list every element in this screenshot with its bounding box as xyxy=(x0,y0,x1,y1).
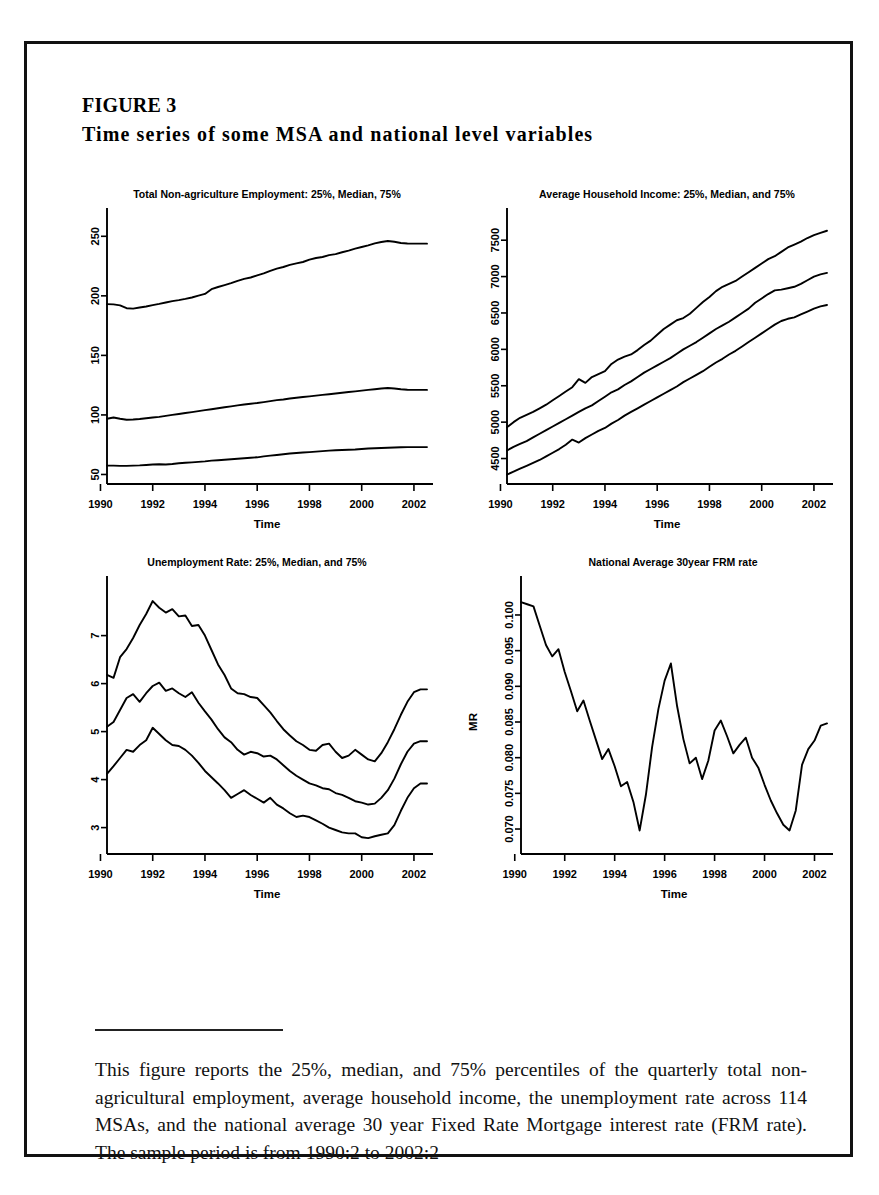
x-tick-label: 1992 xyxy=(140,498,164,510)
figure-label: FIGURE 3 xyxy=(82,91,593,120)
x-tick-label: 1996 xyxy=(652,868,676,880)
figure-caption: This figure reports the 25%, median, and… xyxy=(95,1056,807,1166)
y-tick-label: 6 xyxy=(89,681,101,687)
series-line-Median xyxy=(507,273,827,451)
chart-title: Total Non-agriculture Employment: 25%, M… xyxy=(133,188,401,200)
x-axis-title: Time xyxy=(654,518,681,530)
x-tick-label: 2002 xyxy=(402,868,426,880)
series-line-MR xyxy=(521,602,827,830)
y-tick-label: 7500 xyxy=(489,228,501,252)
x-tick-label: 1992 xyxy=(140,868,164,880)
x-tick-label: 1998 xyxy=(697,498,721,510)
y-tick-label: 0.100 xyxy=(503,601,515,629)
x-tick-label: 2002 xyxy=(802,498,826,510)
y-tick-label: 150 xyxy=(89,346,101,364)
y-tick-label: 6000 xyxy=(489,337,501,361)
x-tick-label: 1996 xyxy=(245,868,269,880)
y-tick-label: 0.075 xyxy=(503,780,515,808)
x-tick-label: 2000 xyxy=(752,868,776,880)
y-tick-label: 7 xyxy=(89,633,101,639)
y-tick-label: 3 xyxy=(89,825,101,831)
series-line-25pct xyxy=(107,447,427,466)
figure-title: Time series of some MSA and national lev… xyxy=(82,120,593,149)
y-tick-label: 5 xyxy=(89,729,101,735)
x-tick-label: 1996 xyxy=(245,498,269,510)
chart-employment: Total Non-agriculture Employment: 25%, M… xyxy=(45,184,435,552)
y-axis-title: MR xyxy=(467,712,479,731)
chart-unemployment-rate-svg: Unemployment Rate: 25%, Median, and 75%3… xyxy=(45,552,435,922)
x-tick-label: 1990 xyxy=(488,498,512,510)
chart-household-income: Average Household Income: 25%, Median, a… xyxy=(435,184,835,552)
y-tick-label: 4500 xyxy=(489,446,501,470)
y-tick-label: 0.090 xyxy=(503,673,515,701)
y-tick-label: 6500 xyxy=(489,301,501,325)
caption-divider xyxy=(95,1029,283,1031)
series-line-Median xyxy=(107,388,427,420)
y-tick-label: 0.085 xyxy=(503,708,515,736)
y-tick-label: 5000 xyxy=(489,410,501,434)
series-line-75pct xyxy=(107,601,427,761)
x-tick-label: 1998 xyxy=(297,868,321,880)
chart-frm-rate: National Average 30year FRM rate0.0700.0… xyxy=(435,552,835,922)
series-line-25pct xyxy=(107,728,427,838)
x-tick-label: 1998 xyxy=(702,868,726,880)
x-tick-label: 1998 xyxy=(297,498,321,510)
x-tick-label: 1994 xyxy=(602,868,627,880)
x-tick-label: 1992 xyxy=(552,868,576,880)
series-line-Median xyxy=(107,683,427,805)
x-tick-label: 2002 xyxy=(402,498,426,510)
y-tick-label: 250 xyxy=(89,227,101,245)
y-tick-label: 4 xyxy=(89,776,101,783)
x-tick-label: 1990 xyxy=(88,868,112,880)
x-tick-label: 1994 xyxy=(193,498,218,510)
x-tick-label: 2002 xyxy=(802,868,826,880)
x-tick-label: 1996 xyxy=(645,498,669,510)
chart-grid: Total Non-agriculture Employment: 25%, M… xyxy=(27,184,850,924)
x-tick-label: 1990 xyxy=(503,868,527,880)
x-tick-label: 2000 xyxy=(349,498,373,510)
x-axis-title: Time xyxy=(254,888,281,900)
chart-title: Average Household Income: 25%, Median, a… xyxy=(539,188,795,200)
series-line-75pct xyxy=(107,241,427,309)
chart-household-income-svg: Average Household Income: 25%, Median, a… xyxy=(435,184,835,552)
y-tick-label: 7000 xyxy=(489,264,501,288)
x-axis-title: Time xyxy=(661,888,688,900)
x-tick-label: 2000 xyxy=(349,868,373,880)
chart-title: Unemployment Rate: 25%, Median, and 75% xyxy=(147,556,367,568)
y-tick-label: 100 xyxy=(89,406,101,424)
x-tick-label: 1990 xyxy=(88,498,112,510)
x-axis-title: Time xyxy=(254,518,281,530)
x-tick-label: 1994 xyxy=(593,498,618,510)
series-line-25pct xyxy=(507,305,827,475)
chart-unemployment-rate: Unemployment Rate: 25%, Median, and 75%3… xyxy=(45,552,435,922)
figure-page: FIGURE 3 Time series of some MSA and nat… xyxy=(0,0,879,1195)
x-tick-label: 1992 xyxy=(540,498,564,510)
chart-frm-rate-svg: National Average 30year FRM rate0.0700.0… xyxy=(435,552,835,922)
chart-employment-svg: Total Non-agriculture Employment: 25%, M… xyxy=(45,184,435,552)
x-tick-label: 1994 xyxy=(193,868,218,880)
figure-frame: FIGURE 3 Time series of some MSA and nat… xyxy=(24,41,853,1157)
x-tick-label: 2000 xyxy=(749,498,773,510)
y-tick-label: 0.080 xyxy=(503,744,515,772)
figure-heading: FIGURE 3 Time series of some MSA and nat… xyxy=(82,91,593,149)
chart-title: National Average 30year FRM rate xyxy=(588,556,757,568)
y-tick-label: 200 xyxy=(89,287,101,305)
y-tick-label: 0.095 xyxy=(503,637,515,665)
y-tick-label: 0.070 xyxy=(503,815,515,843)
series-line-75pct xyxy=(507,231,827,427)
y-tick-label: 5500 xyxy=(489,374,501,398)
y-tick-label: 50 xyxy=(89,468,101,480)
